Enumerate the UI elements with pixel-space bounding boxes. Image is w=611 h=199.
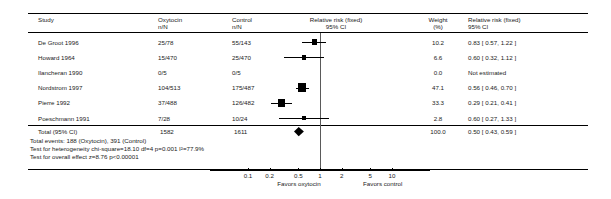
effect-value-3: 0.56 [ 0.46, 0.70 ] — [468, 84, 516, 91]
ci-line-0 — [302, 42, 326, 43]
forest-plot-figure: Study Oxytocin n/N Control n/N Relative … — [0, 0, 611, 199]
control-count-3: 175/487 — [232, 84, 254, 91]
oxytocin-count-3: 104/513 — [158, 84, 180, 91]
effect-marker-3 — [298, 83, 306, 91]
ci-line-5 — [279, 118, 329, 119]
axis-label-favors-oxytocin: Favors oxytocin — [254, 180, 344, 187]
total-control-n: 1611 — [234, 128, 247, 135]
axis-tick-label-1: 1 — [308, 172, 332, 179]
effect-marker-4 — [278, 99, 286, 107]
total-label: Total (95% CI) — [38, 128, 77, 135]
study-name-0: De Groot 1996 — [38, 39, 79, 46]
study-name-4: Pierre 1992 — [38, 99, 70, 106]
axis-tick-label-2: 2 — [330, 172, 354, 179]
effect-value-5: 0.60 [ 0.27, 1.33 ] — [468, 115, 516, 122]
control-count-0: 55/143 — [232, 39, 251, 46]
axis-tick-label-0.1: 0.1 — [236, 172, 260, 179]
effect-value-0: 0.83 [ 0.57, 1.22 ] — [468, 39, 516, 46]
x-axis-line — [210, 170, 430, 171]
effect-marker-5 — [302, 116, 306, 120]
weight-value-4: 33.3 — [418, 99, 458, 106]
study-name-3: Nordstrom 1997 — [38, 84, 82, 91]
column-header-control-nn: n/N — [232, 23, 242, 30]
total-events-line: Total events: 188 (Oxytocin), 391 (Contr… — [30, 137, 146, 144]
axis-tick-label-10: 10 — [380, 172, 404, 179]
axis-label-favors-control: Favors control — [338, 180, 428, 187]
null-effect-line — [320, 33, 321, 170]
oxytocin-count-1: 15/470 — [158, 54, 177, 61]
axis-tick-label-0.2: 0.2 — [258, 172, 282, 179]
header-rule-bottom — [28, 32, 588, 33]
column-header-oxytocin-nn: n/N — [158, 23, 168, 30]
study-name-2: Ilancheran 1990 — [38, 69, 82, 76]
header-rule-top — [28, 13, 588, 14]
column-header-study: Study — [38, 16, 54, 23]
oxytocin-count-2: 0/5 — [158, 69, 167, 76]
study-name-1: Howard 1964 — [38, 54, 75, 61]
ci-line-1 — [284, 57, 323, 58]
pooled-effect-diamond — [287, 125, 311, 138]
effect-marker-0 — [312, 39, 317, 44]
study-name-5: Poeschmann 1991 — [38, 115, 90, 122]
axis-tick-label-0.5: 0.5 — [286, 172, 310, 179]
weight-value-5: 2.8 — [418, 115, 458, 122]
column-header-plot-ci: 95% CI — [274, 23, 398, 30]
oxytocin-count-4: 37/488 — [158, 99, 177, 106]
weight-value-1: 6.6 — [418, 54, 458, 61]
ci-line-3 — [296, 88, 309, 89]
weight-value-0: 10.2 — [418, 39, 458, 46]
oxytocin-count-5: 7/28 — [158, 115, 170, 122]
total-weight: 100.0 — [418, 128, 458, 135]
control-count-4: 126/482 — [232, 99, 254, 106]
total-oxytocin-n: 1582 — [160, 128, 174, 135]
weight-value-3: 47.1 — [418, 84, 458, 91]
control-count-5: 10/24 — [232, 115, 247, 122]
effect-value-2: Not estimated — [468, 69, 506, 76]
column-header-weight-pct: (%) — [418, 23, 458, 30]
effect-marker-1 — [302, 55, 307, 60]
column-header-effect-ci: 95% CI — [468, 23, 488, 30]
total-rule-top — [28, 125, 588, 126]
weight-value-2: 0.0 — [418, 69, 458, 76]
heterogeneity-line: Test for heterogeneity chi-square=18.10 … — [30, 145, 204, 152]
effect-value-4: 0.29 [ 0.21, 0.41 ] — [468, 99, 516, 106]
ci-line-4 — [271, 103, 292, 104]
overall-effect-line: Test for overall effect z=8.76 p<0.00001 — [30, 153, 139, 160]
table-rule-bottom — [28, 169, 588, 170]
total-effect-value: 0.50 [ 0.43, 0.59 ] — [468, 128, 516, 135]
oxytocin-count-0: 25/78 — [158, 39, 173, 46]
control-count-2: 0/5 — [232, 69, 241, 76]
effect-value-1: 0.60 [ 0.32, 1.12 ] — [468, 54, 516, 61]
axis-tick-label-5: 5 — [358, 172, 382, 179]
control-count-1: 25/470 — [232, 54, 251, 61]
